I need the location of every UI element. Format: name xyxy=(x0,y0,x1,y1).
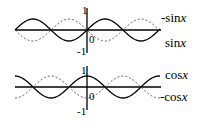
y-tick-top: 1 xyxy=(82,5,88,16)
sin-label: sinx xyxy=(165,36,186,49)
neg-cos-label: -cosx xyxy=(160,90,187,103)
sine-plot xyxy=(15,8,161,53)
origin-label: 0 xyxy=(89,34,95,45)
y-tick-bottom: -1 xyxy=(77,46,86,57)
y-tick-bottom: -1 xyxy=(77,106,86,117)
label-fn: sin xyxy=(165,35,180,50)
label-var: x xyxy=(180,35,186,50)
label-var: x xyxy=(181,10,187,25)
neg-sin-label: -sinx xyxy=(161,11,186,24)
label-fn: -cos xyxy=(160,89,182,104)
label-fn: cos xyxy=(165,67,182,82)
label-var: x xyxy=(182,89,188,104)
cos-label: cosx xyxy=(165,68,188,81)
y-tick-top: 1 xyxy=(81,65,87,76)
label-fn: -sin xyxy=(161,10,181,25)
label-var: x xyxy=(182,67,188,82)
origin-label: 0 xyxy=(89,91,95,102)
